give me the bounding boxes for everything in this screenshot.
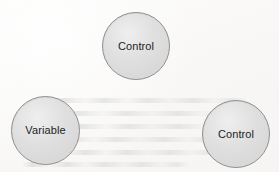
diagram-canvas: Control Variable Control <box>0 0 279 172</box>
node-control-top-label: Control <box>118 41 154 52</box>
node-variable-left[interactable]: Variable <box>11 96 80 165</box>
node-control-top[interactable]: Control <box>102 12 170 80</box>
node-variable-left-label: Variable <box>25 125 65 136</box>
node-control-right[interactable]: Control <box>202 100 270 168</box>
node-control-right-label: Control <box>218 129 254 140</box>
